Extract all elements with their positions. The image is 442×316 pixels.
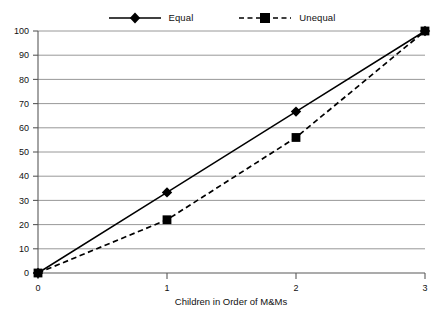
y-tick-label: 60 — [19, 123, 29, 133]
plot-area: 100 90 80 70 60 50 40 30 20 10 0 0 1 2 3 — [0, 0, 442, 316]
data-point — [34, 269, 43, 278]
y-tick-label: 20 — [19, 220, 29, 230]
y-tick-labels: 100 90 80 70 60 50 40 30 20 10 0 — [14, 26, 29, 278]
data-point — [291, 106, 301, 116]
x-tick-labels: 0 1 2 3 — [35, 283, 427, 293]
data-point — [292, 133, 301, 142]
x-tick-label: 0 — [35, 283, 40, 293]
y-tick-label: 10 — [19, 244, 29, 254]
y-tick-label: 50 — [19, 147, 29, 157]
x-tick-label: 1 — [164, 283, 169, 293]
y-tick-label: 40 — [19, 171, 29, 181]
chart-container: Equal Unequal — [0, 0, 442, 316]
gridlines — [38, 31, 425, 249]
x-tick-marks — [38, 273, 425, 279]
y-tick-marks — [33, 31, 38, 273]
x-tick-label: 3 — [422, 283, 427, 293]
plot-svg: 100 90 80 70 60 50 40 30 20 10 0 0 1 2 3 — [0, 0, 442, 316]
data-point — [163, 215, 172, 224]
y-tick-label: 70 — [19, 99, 29, 109]
x-tick-label: 2 — [293, 283, 298, 293]
y-tick-label: 80 — [19, 75, 29, 85]
y-tick-label: 30 — [19, 196, 29, 206]
y-tick-label: 0 — [24, 268, 29, 278]
y-tick-label: 90 — [19, 50, 29, 60]
x-axis-title: Children in Order of M&Ms — [175, 296, 288, 307]
data-point — [162, 187, 172, 197]
data-point — [421, 27, 430, 36]
y-tick-label: 100 — [14, 26, 29, 36]
